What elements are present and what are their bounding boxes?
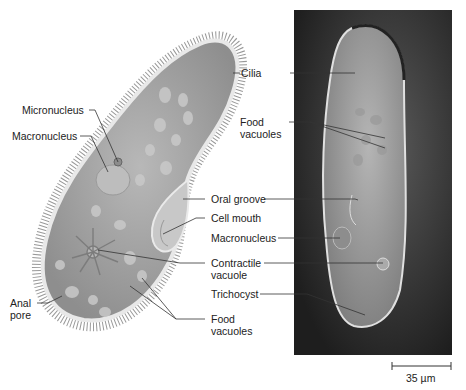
- label-macronucleus-illustration: Macronucleus: [12, 130, 77, 142]
- label-trichocyst: Trichocyst: [211, 288, 258, 300]
- label-micronucleus: Micronucleus: [22, 104, 84, 116]
- label-cilia: Cilia: [241, 67, 261, 79]
- scale-bar-label: 35 µm: [406, 372, 435, 384]
- label-contractile-vacuole-1: Contractile: [211, 257, 261, 269]
- label-food-vacuoles-bottom-2: vacuoles: [211, 325, 252, 337]
- label-macronucleus-photo: Macronucleus: [211, 232, 276, 244]
- macronucleus: [96, 165, 130, 195]
- label-anal-pore-2: pore: [10, 309, 31, 321]
- label-anal-pore-1: Anal: [10, 297, 31, 309]
- label-oral-groove: Oral groove: [211, 193, 266, 205]
- label-food-vacuoles-top-1: Food: [240, 116, 264, 128]
- label-food-vacuoles-top-2: vacuoles: [240, 128, 281, 140]
- label-contractile-vacuole-2: vacuole: [211, 269, 247, 281]
- photomicrograph: [294, 10, 452, 355]
- label-food-vacuoles-bottom-1: Food: [211, 313, 235, 325]
- label-cell-mouth: Cell mouth: [211, 212, 261, 224]
